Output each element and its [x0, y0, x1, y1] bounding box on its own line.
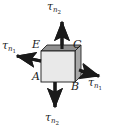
tau-n2-top-label: τn2 — [47, 1, 61, 15]
tau-n2-bottom-label: τn2 — [45, 112, 59, 126]
tau-subsubscript: 1 — [99, 85, 103, 91]
stress-element-figure: E C A B τn2 τn1 τn1 τn2 — [0, 0, 117, 129]
label-A: A — [32, 71, 40, 82]
block-front-face — [41, 51, 75, 82]
tau-subsubscript: 2 — [58, 9, 62, 15]
tau-subsubscript: 2 — [56, 120, 60, 126]
label-B: B — [71, 81, 79, 92]
tau-subsubscript: 1 — [13, 48, 17, 54]
label-C: C — [73, 39, 81, 50]
tau-n1-left-overlay — [17, 56, 41, 61]
tau-n1-left-label: τn1 — [2, 40, 16, 54]
label-E: E — [32, 39, 40, 50]
figure-canvas — [0, 0, 117, 129]
tau-n1-right-label: τn1 — [88, 77, 102, 91]
